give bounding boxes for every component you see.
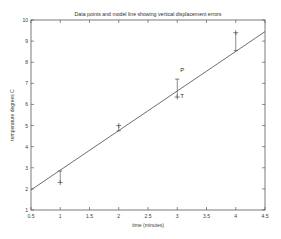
point-annotation-t: T bbox=[180, 93, 184, 99]
y-tick-label: 3 bbox=[25, 165, 28, 171]
x-tick-label: 4 bbox=[234, 213, 237, 219]
y-tick-label: 10 bbox=[22, 17, 28, 23]
y-tick-label: 1 bbox=[25, 207, 28, 213]
x-tick-label: 3 bbox=[176, 213, 179, 219]
point-annotation-p: P bbox=[180, 67, 184, 73]
y-tick-label: 9 bbox=[25, 38, 28, 44]
y-axis-title: temperature degrees C bbox=[9, 89, 15, 141]
x-tick-label: 4.5 bbox=[262, 213, 269, 219]
x-tick-label: 2 bbox=[117, 213, 120, 219]
y-tick-label: 8 bbox=[25, 59, 28, 65]
y-tick-label: 2 bbox=[25, 186, 28, 192]
figure-background bbox=[0, 0, 281, 239]
x-tick-label: 0.5 bbox=[28, 213, 35, 219]
x-tick-label: 1 bbox=[59, 213, 62, 219]
y-tick-label: 4 bbox=[25, 144, 28, 150]
chart-canvas: Data points and model line showing verti… bbox=[0, 0, 281, 239]
y-tick-label: 6 bbox=[25, 101, 28, 107]
y-tick-label: 7 bbox=[25, 80, 28, 86]
x-tick-label: 2.5 bbox=[145, 213, 152, 219]
x-axis-title: time (minutes) bbox=[132, 222, 164, 228]
figure-container: Data points and model line showing verti… bbox=[0, 0, 281, 239]
x-tick-label: 3.5 bbox=[203, 213, 210, 219]
x-tick-label: 1.5 bbox=[86, 213, 93, 219]
chart-title: Data points and model line showing verti… bbox=[75, 11, 222, 17]
y-tick-label: 5 bbox=[25, 123, 28, 129]
